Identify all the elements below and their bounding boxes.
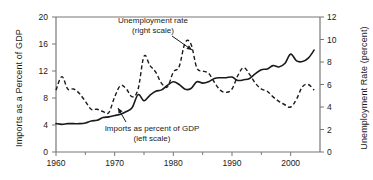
y-tick-label-left: 4 bbox=[28, 120, 48, 130]
y-tick-label-left: 8 bbox=[28, 93, 48, 103]
y-tick-label-right: 2 bbox=[327, 125, 347, 135]
y-tick-label-left: 0 bbox=[28, 147, 48, 157]
y-tick-label-right: 8 bbox=[327, 57, 347, 67]
y-tick-label-left: 16 bbox=[28, 39, 48, 49]
y-tick-label-right: 0 bbox=[327, 147, 347, 157]
imports-annotation-line2: (left scale) bbox=[88, 134, 216, 144]
series-imports-gdp bbox=[56, 50, 314, 124]
annotation-arrows bbox=[118, 36, 192, 122]
y-tick-label-left: 12 bbox=[28, 66, 48, 76]
x-tick-label: 1980 bbox=[158, 158, 188, 168]
y-tick-label-right: 12 bbox=[327, 12, 347, 22]
unemployment-annotation-line1: Unemployment rate bbox=[98, 16, 208, 26]
unemployment-annotation-line2: (right scale) bbox=[98, 26, 208, 36]
y-tick-label-right: 6 bbox=[327, 80, 347, 90]
x-tick-label: 2000 bbox=[276, 158, 306, 168]
unemployment-annotation: Unemployment rate (right scale) bbox=[98, 16, 208, 36]
x-tick-label: 1970 bbox=[100, 158, 130, 168]
chart-container: Imports as a Percent of GDP Unemployment… bbox=[0, 0, 373, 180]
x-tick-label: 1960 bbox=[41, 158, 71, 168]
series-group bbox=[56, 40, 314, 124]
y-tick-label-left: 20 bbox=[28, 12, 48, 22]
y-tick-label-right: 4 bbox=[327, 102, 347, 112]
x-tick-label: 1990 bbox=[217, 158, 247, 168]
y-tick-label-right: 10 bbox=[327, 35, 347, 45]
series-unemployment-rate bbox=[56, 40, 314, 113]
imports-annotation: Imports as percent of GDP (left scale) bbox=[88, 124, 216, 144]
imports-annotation-line1: Imports as percent of GDP bbox=[88, 124, 216, 134]
